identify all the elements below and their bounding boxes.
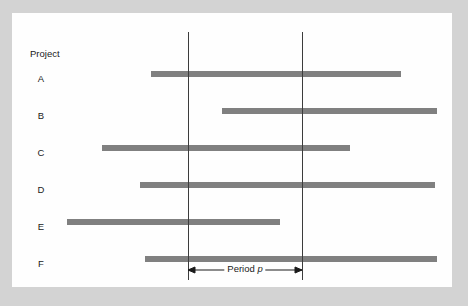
- figure-frame: Project A B C D E F Period p: [0, 0, 468, 306]
- task-bar-d: [140, 182, 435, 188]
- period-start-line: [188, 32, 189, 280]
- period-annotation: Period p: [188, 264, 302, 282]
- row-label-d: D: [32, 185, 50, 195]
- row-label-f: F: [32, 259, 50, 269]
- row-label-c: C: [32, 148, 50, 158]
- chart-canvas: Project A B C D E F Period p: [12, 13, 452, 287]
- axis-title-project: Project: [30, 49, 60, 59]
- period-label: Period p: [224, 264, 265, 274]
- row-label-e: E: [32, 222, 50, 232]
- task-bar-c: [102, 145, 350, 151]
- row-label-a: A: [32, 74, 50, 84]
- row-label-b: B: [32, 111, 50, 121]
- task-bar-e: [67, 219, 280, 225]
- period-end-line: [302, 32, 303, 280]
- task-bar-b: [222, 108, 437, 114]
